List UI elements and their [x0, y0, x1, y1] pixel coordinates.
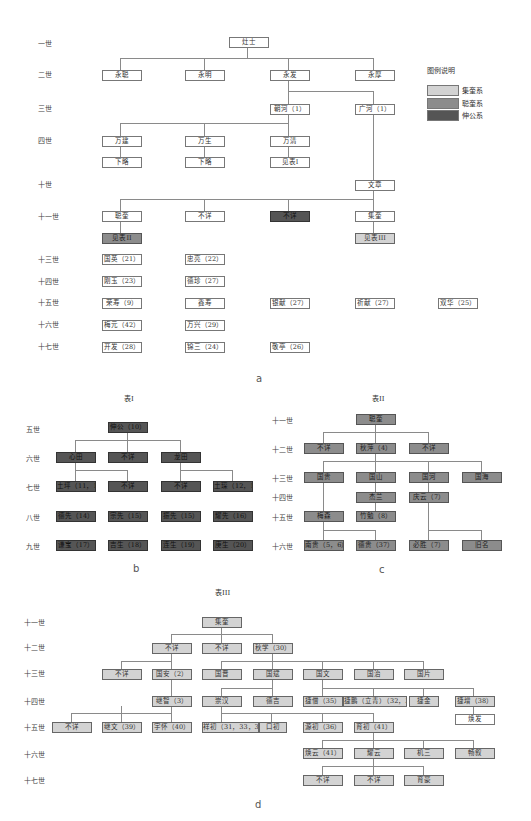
generation-label: 三世	[38, 103, 52, 113]
node: 崇汉	[202, 696, 242, 707]
generation-label: 十五世	[38, 297, 59, 307]
node: 永发	[270, 70, 310, 81]
node: 国海	[462, 472, 502, 483]
node: 谦宝（17）	[56, 540, 96, 551]
node: 国贵	[304, 472, 344, 483]
node: 旧名	[462, 540, 502, 551]
node-see-table-3: 见表III	[355, 233, 395, 244]
generation-label: 十一世	[272, 415, 293, 425]
node: 集奎	[355, 211, 395, 222]
generation-label: 九世	[26, 541, 40, 551]
node: 不详	[161, 481, 201, 492]
panel-title: 表III	[215, 587, 230, 597]
generation-label: 十三世	[272, 473, 293, 483]
node: 梅元（42）	[102, 320, 142, 331]
node: 万生	[185, 136, 225, 147]
generation-label: 六世	[26, 453, 40, 463]
node: 万兴（29）	[185, 320, 225, 331]
legend-label: 集奎系	[462, 85, 483, 95]
node: 口初	[259, 722, 287, 733]
node: 必胜（7）	[409, 540, 449, 551]
node: 不详	[52, 722, 92, 733]
node: 国治	[354, 669, 394, 680]
node: 土坪（11，12）	[56, 481, 96, 492]
node: 不详	[185, 211, 225, 222]
node: 吉生（18）	[108, 540, 148, 551]
generation-label: 二世	[38, 69, 52, 79]
node: 集奎	[202, 617, 242, 628]
node: 聪奎	[102, 211, 142, 222]
node: 不详	[303, 775, 343, 786]
node: 竹勉（8）	[356, 511, 396, 522]
node-omitted: 下略	[102, 157, 142, 168]
node: 不详	[102, 669, 142, 680]
generation-label: 四世	[38, 135, 52, 145]
node: 永聪	[102, 70, 142, 81]
node: 育初（41）	[354, 722, 394, 733]
generation-label: 十六世	[38, 319, 59, 329]
panel-title: 表I	[124, 393, 134, 403]
node: 国英（21）	[102, 254, 142, 265]
generation-label: 十七世	[24, 775, 45, 785]
node: 畅叙	[455, 748, 495, 759]
node: 德吉	[253, 696, 293, 707]
node: 国安（2）	[152, 669, 192, 680]
node: 秋学（30）	[253, 643, 293, 654]
generation-label: 十世	[38, 179, 52, 189]
node: 继文（39）	[102, 722, 142, 733]
node: 永明	[185, 70, 225, 81]
node: 不详	[354, 775, 394, 786]
node: 焕发	[455, 714, 495, 725]
generation-label: 十五世	[272, 512, 293, 522]
node: 国山	[356, 472, 396, 483]
legend-swatch-congkui	[427, 98, 459, 109]
node-omitted: 下略	[185, 157, 225, 168]
generation-label: 十六世	[24, 749, 45, 759]
node: 土琛（12，13）	[213, 481, 253, 492]
node: 万清	[270, 136, 310, 147]
legend-swatch-jikui	[427, 85, 459, 96]
node: 德先（14）	[56, 511, 96, 522]
node: 梅森	[304, 511, 344, 522]
generation-label: 十五世	[24, 722, 45, 732]
node: 不详	[409, 443, 449, 454]
node: 鑫寿	[185, 298, 225, 309]
generation-label: 十四世	[38, 276, 59, 286]
node: 庆云（7）	[409, 492, 449, 503]
node: 杰兰	[356, 492, 396, 503]
legend-label: 伸公系	[462, 110, 483, 120]
node: 刚玉（23）	[102, 276, 142, 287]
generation-label: 七世	[26, 482, 40, 492]
legend-swatch-shengong	[427, 110, 459, 121]
generation-label: 十一世	[24, 617, 45, 627]
node: 机三	[404, 748, 444, 759]
generation-label: 八世	[26, 512, 40, 522]
node: 心田	[56, 452, 96, 463]
node: 开发（28）	[102, 342, 142, 353]
node: 文章	[355, 180, 395, 191]
node: 宗先（15）	[108, 511, 148, 522]
node: 祈献（27）	[355, 298, 395, 309]
node: 捷金	[409, 696, 439, 707]
node: 耀先（16）	[213, 511, 253, 522]
node: 源初（36）	[303, 722, 343, 733]
node: 捷鹏（立青）（32，33）	[343, 696, 407, 707]
node: 不详	[202, 643, 242, 654]
node: 聪奎	[356, 414, 396, 425]
node: 敬亭（26）	[270, 342, 310, 353]
node: 银献（27）	[270, 298, 310, 309]
node: 不详	[304, 443, 344, 454]
generation-label: 十二世	[272, 444, 293, 454]
node: 国河	[409, 472, 449, 483]
node: 耀云	[354, 748, 394, 759]
node: 广河（1）	[355, 104, 395, 115]
panel-title: 表II	[372, 393, 385, 403]
panel-caption: a	[256, 373, 262, 384]
node: 祥初（31，33，34）	[202, 722, 259, 733]
legend-label: 聪奎系	[462, 98, 483, 108]
node: 朝河（1）	[270, 104, 310, 115]
legend-title: 图例说明	[427, 65, 455, 75]
generation-label: 十七世	[38, 341, 59, 351]
node: 永厚	[355, 70, 395, 81]
node: 不详	[108, 452, 148, 463]
